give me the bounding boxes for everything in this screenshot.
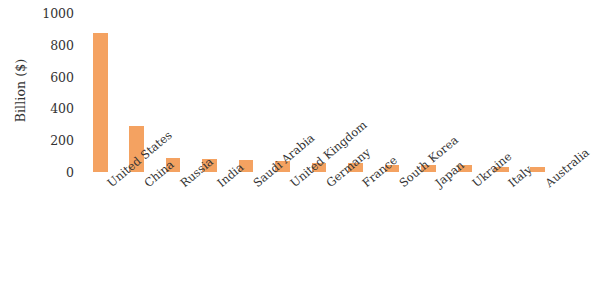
y-axis-tick-800: 800 — [50, 37, 74, 52]
y-axis-tick-600: 600 — [50, 69, 74, 84]
y-axis-label: Billion ($) — [8, 0, 34, 180]
x-axis-tick-label: France — [361, 178, 370, 189]
x-axis-tick-label: Russia — [179, 178, 188, 189]
y-axis-tick-1000: 1000 — [42, 6, 74, 21]
y-axis-tick-200: 200 — [50, 133, 74, 148]
y-axis-tick-400: 400 — [50, 101, 74, 116]
y-axis-label-text: Billion ($) — [14, 58, 29, 122]
x-axis-tick-label: United Kingdom — [289, 178, 298, 189]
x-axis-tick-label: China — [143, 178, 152, 189]
x-axis-tick-label: Ukraine — [471, 178, 480, 189]
bar — [93, 33, 108, 172]
x-axis-tick-label: India — [216, 178, 225, 189]
y-axis-tick-0: 0 — [66, 165, 74, 180]
x-axis-tick-label: Australia — [544, 178, 553, 189]
x-axis-tick-label: United States — [106, 178, 115, 189]
x-axis-tick-label: Germany — [325, 178, 334, 189]
x-axis-tick-label: Saudi Arabia — [252, 178, 261, 189]
x-axis-tick-label: South Korea — [398, 178, 407, 189]
x-axis-tick-labels: United StatesChinaRussiaIndiaSaudi Arabi… — [82, 172, 556, 293]
x-axis-tick-label: Japan — [434, 178, 443, 189]
y-axis-tick-labels: 02004006008001000 — [34, 0, 78, 180]
x-axis-tick-label: Italy — [507, 178, 516, 189]
